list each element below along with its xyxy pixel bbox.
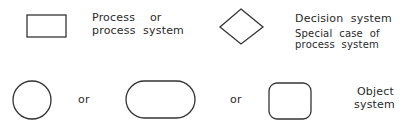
object-stadium-shape — [126, 81, 195, 118]
decision-diamond-shape — [220, 9, 263, 44]
object-label-line1: Object — [357, 85, 394, 98]
decision-label: Decision system — [295, 12, 392, 25]
process-label-line2: process system — [92, 24, 184, 37]
object-label-line2: system — [354, 98, 395, 111]
object-rounded-square-shape — [269, 83, 311, 119]
or-separator-1: or — [78, 93, 90, 106]
object-circle-shape — [13, 81, 51, 119]
process-label-line1: Process or — [92, 11, 162, 24]
process-rectangle-shape — [27, 15, 66, 37]
decision-note-line2: process system — [295, 39, 379, 51]
or-separator-2: or — [230, 93, 242, 106]
